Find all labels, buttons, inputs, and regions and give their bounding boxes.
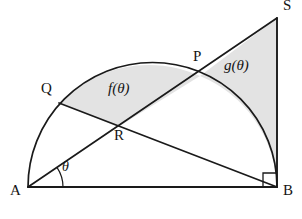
vertex-label-a: A	[10, 183, 21, 198]
vertex-label-p: P	[193, 49, 201, 64]
region-label-f: f(θ)	[108, 81, 130, 96]
geometry-figure: A B S P Q R f(θ) g(θ) θ	[0, 0, 302, 219]
geometry-canvas	[0, 0, 302, 219]
segment-qb	[59, 103, 277, 187]
vertex-label-r: R	[114, 128, 124, 143]
vertex-label-q: Q	[41, 81, 52, 96]
vertex-label-b: B	[283, 183, 293, 198]
vertex-label-s: S	[283, 0, 291, 13]
angle-label-theta: θ	[62, 160, 69, 174]
region-label-g: g(θ)	[224, 58, 249, 73]
